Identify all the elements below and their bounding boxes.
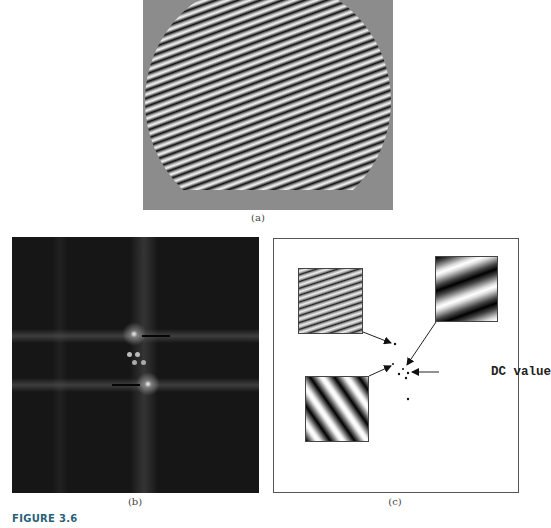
panel-b-spectrum bbox=[12, 237, 259, 493]
caption-b: (b) bbox=[125, 496, 145, 507]
freq-dot bbox=[407, 398, 409, 400]
spectral-dot bbox=[132, 360, 137, 365]
spectral-dot bbox=[135, 352, 140, 357]
dark-streak bbox=[112, 384, 140, 386]
spectral-dot bbox=[141, 360, 146, 365]
arrow-diag-to-peak bbox=[369, 366, 391, 376]
freq-dot bbox=[394, 343, 396, 345]
faint-vertical-band bbox=[52, 237, 68, 493]
dc-value-label: DC value bbox=[491, 365, 551, 379]
freq-dot bbox=[402, 368, 404, 370]
freq-dot bbox=[398, 373, 400, 375]
spectral-dot bbox=[127, 352, 132, 357]
figure-label: FIGURE 3.6 bbox=[12, 513, 78, 524]
panel-c-diagram: DC value bbox=[273, 238, 519, 493]
spectral-peak-upper bbox=[120, 320, 148, 348]
striped-disc bbox=[145, 0, 391, 210]
caption-c: (c) bbox=[385, 496, 405, 507]
arrow-fine-to-peak bbox=[363, 332, 391, 343]
dark-streak bbox=[142, 335, 170, 337]
vertical-spectral-band bbox=[130, 237, 158, 493]
caption-a: (a) bbox=[248, 212, 268, 223]
freq-dot bbox=[405, 377, 407, 379]
freq-dot bbox=[407, 372, 409, 374]
freq-dot bbox=[392, 363, 394, 365]
arrows-overlay bbox=[274, 239, 520, 494]
arrow-wide-to-dc bbox=[407, 322, 436, 365]
panel-a-image bbox=[143, 0, 393, 210]
